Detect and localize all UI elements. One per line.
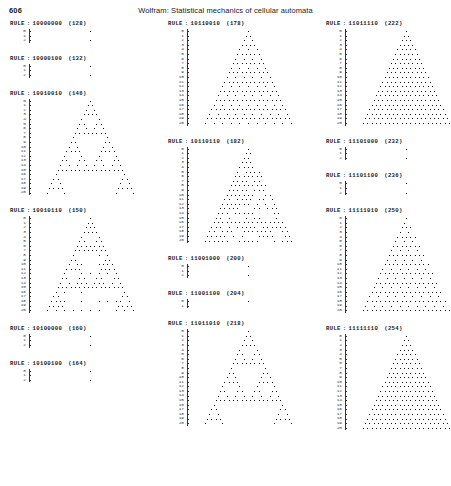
cell — [259, 91, 260, 92]
cell — [395, 396, 396, 397]
cell — [122, 170, 123, 171]
cell — [374, 423, 375, 424]
cell — [276, 227, 277, 228]
cell — [419, 310, 420, 311]
running-head: Wolfram: Statistical mechanics of cellul… — [0, 6, 451, 15]
cell — [107, 273, 108, 274]
cell — [250, 72, 251, 73]
cell — [101, 269, 102, 270]
cell — [109, 151, 110, 152]
cell — [410, 391, 411, 392]
cell — [376, 95, 377, 96]
cell — [376, 283, 377, 284]
cell — [58, 287, 59, 288]
cell — [436, 123, 437, 124]
cell — [280, 100, 281, 101]
cell — [263, 363, 264, 364]
cell — [408, 269, 409, 270]
cell — [408, 91, 409, 92]
cell — [257, 350, 258, 351]
axis-tick — [29, 232, 31, 233]
axis-tick — [345, 278, 347, 279]
cell — [66, 287, 67, 288]
cell — [250, 54, 251, 55]
cell — [419, 409, 420, 410]
cell — [365, 118, 366, 119]
cell — [233, 82, 234, 83]
cell — [430, 296, 431, 297]
axis-tick — [345, 31, 347, 32]
cell — [367, 310, 368, 311]
cell — [408, 36, 409, 37]
cell — [254, 100, 255, 101]
rule-decimal: (132) — [62, 55, 87, 62]
evolution-plot: 012 — [2, 369, 152, 387]
cell — [395, 100, 396, 101]
axis-tick — [187, 382, 189, 383]
cell — [425, 306, 426, 307]
cell — [404, 223, 405, 224]
evolution-plot: 012 — [160, 264, 310, 282]
axis-tick — [187, 86, 189, 87]
cell — [96, 124, 97, 125]
cell — [430, 396, 431, 397]
cell — [220, 391, 221, 392]
cell — [227, 204, 228, 205]
cell — [397, 354, 398, 355]
cell — [415, 114, 416, 115]
cell — [382, 306, 383, 307]
cell — [227, 77, 228, 78]
cell — [257, 222, 258, 223]
cell — [92, 133, 93, 134]
axis-tick — [345, 423, 347, 424]
evolution-plot: 01 — [160, 299, 310, 312]
axis-tick — [345, 45, 347, 46]
cell — [79, 269, 80, 270]
cell — [118, 306, 119, 307]
cell — [92, 170, 93, 171]
cell — [265, 185, 266, 186]
cell — [387, 377, 388, 378]
cell — [415, 382, 416, 383]
cell — [75, 260, 76, 261]
cell — [391, 368, 392, 369]
cell — [248, 331, 249, 332]
cell — [385, 428, 386, 429]
cell — [118, 278, 119, 279]
cell — [391, 82, 392, 83]
cell — [246, 400, 247, 401]
cell — [220, 400, 221, 401]
rule-label-prefix: RULE — [326, 172, 341, 179]
cell — [79, 241, 80, 242]
axis-tick — [345, 350, 347, 351]
cell — [250, 109, 251, 110]
rule-label-separator: : — [183, 290, 191, 297]
cell — [423, 409, 424, 410]
cell — [408, 82, 409, 83]
cell — [393, 301, 394, 302]
cell — [112, 264, 113, 265]
axis-tick — [29, 380, 31, 381]
cell — [402, 40, 403, 41]
axis-tick — [29, 237, 31, 238]
cell — [406, 345, 407, 346]
cell — [207, 419, 208, 420]
axis-tick — [187, 405, 189, 406]
cell — [415, 237, 416, 238]
cell — [272, 118, 273, 119]
cell — [239, 222, 240, 223]
rule-label-separator: : — [183, 20, 191, 27]
axis-tick — [187, 199, 189, 200]
axis-tick — [29, 371, 31, 372]
cell — [124, 174, 125, 175]
cell — [415, 246, 416, 247]
cell — [385, 273, 386, 274]
automaton-block: RULE:10000100(132)012 — [2, 55, 152, 82]
cell — [423, 301, 424, 302]
cell — [417, 100, 418, 101]
cell — [79, 287, 80, 288]
axis-tick — [187, 301, 189, 302]
cell — [404, 377, 405, 378]
cell — [412, 278, 413, 279]
rule-binary: 11111110 — [349, 325, 379, 332]
